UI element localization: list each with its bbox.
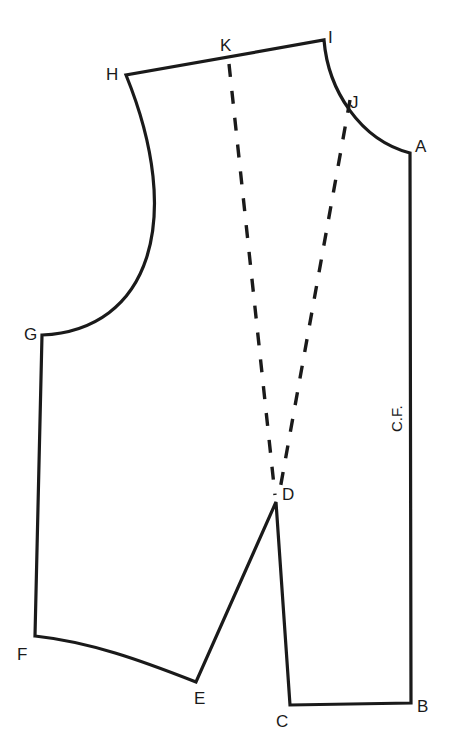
point-label-i: I bbox=[328, 28, 333, 47]
point-label-k: K bbox=[220, 36, 232, 55]
point-label-e: E bbox=[194, 689, 205, 708]
pattern-outline bbox=[35, 40, 411, 705]
point-label-c: C bbox=[276, 712, 288, 731]
point-label-d: D bbox=[282, 485, 294, 504]
point-label-h: H bbox=[106, 65, 118, 84]
point-label-a: A bbox=[415, 137, 427, 156]
point-label-j: J bbox=[350, 93, 359, 112]
pattern-diagram: H K I J A G D F E C B C.F. bbox=[0, 0, 474, 733]
slash-line-k-d bbox=[229, 64, 275, 495]
point-label-g: G bbox=[24, 325, 37, 344]
center-front-label: C.F. bbox=[388, 405, 405, 432]
slash-line-j-d bbox=[279, 100, 350, 495]
point-label-f: F bbox=[17, 645, 27, 664]
point-label-b: B bbox=[417, 697, 428, 716]
